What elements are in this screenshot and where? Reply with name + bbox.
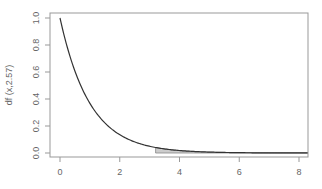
density-curve xyxy=(60,18,308,153)
plot-area xyxy=(50,13,308,157)
x-tick-label: 8 xyxy=(296,167,301,177)
y-tick-label: 0.8 xyxy=(31,39,41,52)
y-tick-label: 1.0 xyxy=(31,12,41,25)
y-tick-label: 0.0 xyxy=(31,147,41,160)
y-tick-label: 0.2 xyxy=(31,120,41,133)
y-axis-title: df (x,2.57) xyxy=(4,65,14,106)
x-tick-label: 0 xyxy=(57,167,62,177)
plot-frame xyxy=(50,13,308,157)
y-tick-label: 0.6 xyxy=(31,66,41,79)
x-tick-label: 6 xyxy=(237,167,242,177)
y-axis: 0.00.20.40.60.81.0 xyxy=(31,12,50,160)
y-tick-label: 0.4 xyxy=(31,93,41,106)
x-tick-label: 2 xyxy=(117,167,122,177)
density-chart: 0.00.20.40.60.81.0 02468 df (x,2.57) xyxy=(0,0,322,189)
x-tick-label: 4 xyxy=(177,167,182,177)
x-axis: 02468 xyxy=(57,157,301,177)
